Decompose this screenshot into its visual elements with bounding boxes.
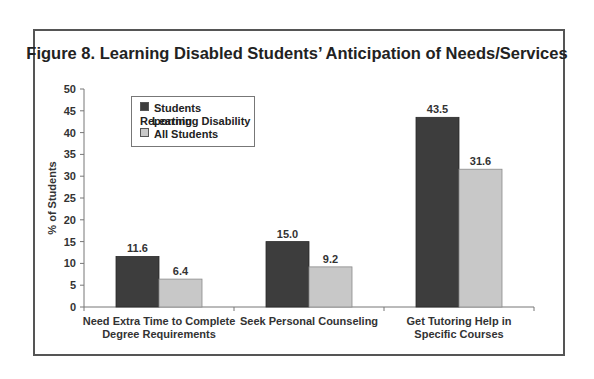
- y-axis-label: % of Students: [46, 161, 58, 234]
- x-category-label: Degree Requirements: [102, 328, 216, 340]
- y-tick-label: 5: [70, 279, 76, 291]
- bar-value-label: 11.6: [127, 242, 148, 254]
- bar-chart: 05101520253035404550% of Students11.66.4…: [0, 0, 594, 379]
- bar-all-students: [159, 279, 202, 307]
- bar-learning-disabled: [416, 117, 459, 307]
- y-tick-label: 45: [64, 105, 76, 117]
- legend-item-all: All Students: [140, 128, 218, 141]
- y-tick-label: 30: [64, 170, 76, 182]
- x-category-label: Need Extra Time to Complete: [83, 315, 236, 327]
- bar-all-students: [459, 169, 502, 307]
- y-tick-label: 50: [64, 83, 76, 95]
- bar-learning-disabled: [116, 256, 159, 307]
- bar-value-label: 6.4: [173, 265, 189, 277]
- bar-value-label: 9.2: [323, 253, 338, 265]
- legend: Students Reporting Learning Disability A…: [131, 96, 255, 147]
- y-tick-label: 15: [64, 236, 76, 248]
- bar-value-label: 31.6: [470, 155, 491, 167]
- legend-item-ld-line2: Learning Disability: [152, 115, 250, 128]
- legend-swatch-dark: [140, 102, 149, 111]
- x-category-label: Specific Courses: [414, 328, 503, 340]
- y-tick-label: 40: [64, 127, 76, 139]
- x-category-label: Get Tutoring Help in: [407, 315, 512, 327]
- y-tick-label: 10: [64, 257, 76, 269]
- bar-learning-disabled: [266, 242, 309, 307]
- bar-all-students: [309, 267, 352, 307]
- y-tick-label: 25: [64, 192, 76, 204]
- x-category-label: Seek Personal Counseling: [240, 315, 378, 327]
- y-tick-label: 20: [64, 214, 76, 226]
- legend-swatch-light: [140, 128, 149, 137]
- y-tick-label: 0: [70, 301, 76, 313]
- bar-value-label: 15.0: [277, 228, 298, 240]
- bar-value-label: 43.5: [427, 103, 448, 115]
- y-tick-label: 35: [64, 148, 76, 160]
